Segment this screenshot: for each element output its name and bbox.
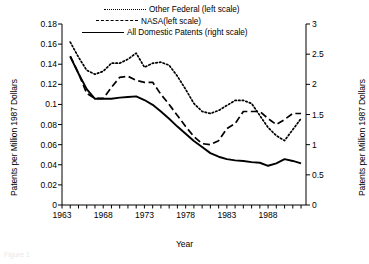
chart-legend: Other Federal (left scale) NASA(left sca… [96,4,248,39]
y-axis-left-tick-label: 0.1 [45,99,57,109]
x-axis-tick-label: 1988 [259,210,278,220]
legend-item-all-domestic-patents: All Domestic Patents (right scale) [82,27,248,39]
y-axis-left-tick-label: 0 [52,200,57,210]
y-axis-right-tick-label: 2.5 [312,49,324,59]
y-axis-left-tick-label: 0.02 [40,180,57,190]
x-axis-tick-label: 1973 [135,210,154,220]
y-axis-right-tick-label: 1 [312,140,317,150]
y-axis-left-tick-label: 0.04 [40,160,57,170]
y-axis-right-title: Patents per Million 1987 Dollars [357,79,367,196]
y-axis-right-tick-label: 0.5 [312,170,324,180]
y-axis-left-tick-label: 0.12 [40,79,57,89]
figure-caption: Figure 1 [4,251,30,258]
y-axis-left-tick-label: 0.16 [40,39,57,49]
legend-label-other-federal: Other Federal (left scale) [149,4,240,16]
y-axis-right-tick-label: 2 [312,79,317,89]
legend-label-all-domestic-patents: All Domestic Patents (right scale) [127,27,248,39]
legend-label-nasa: NASA(left scale) [141,16,201,28]
y-axis-right-tick-label: 1.5 [312,110,324,120]
x-axis-tick-label: 1978 [176,210,195,220]
y-axis-left-tick-label: 0.18 [40,19,57,29]
y-axis-right-tick-label: 3 [312,19,317,29]
legend-item-other-federal: Other Federal (left scale) [104,4,248,16]
x-axis-tick-label: 1968 [94,210,113,220]
y-axis-left-tick-label: 0.06 [40,140,57,150]
legend-item-nasa: NASA(left scale) [96,16,248,28]
x-axis-tick-label: 1983 [217,210,236,220]
y-axis-right-tick-label: 0 [312,200,317,210]
x-axis-tick-label: 1963 [53,210,72,220]
y-axis-left-tick-label: 0.14 [40,59,57,69]
figure-container: Other Federal (left scale) NASA(left sca… [0,0,369,264]
y-axis-left-tick-label: 0.08 [40,120,57,130]
x-axis-title: Year [0,239,369,249]
y-axis-left-title: Patents per Million 1987 Dollars [9,79,19,196]
series-line-all-domestic-patents-right-scale [70,57,301,166]
